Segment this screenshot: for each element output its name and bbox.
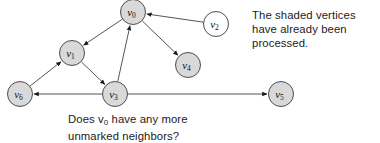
graph-edge-v1-to-v3 [81,62,104,84]
legend-note-line-1: The shaded vertices [252,8,376,22]
legend-note: The shaded vertices have already been pr… [252,8,376,51]
graph-node-v3[interactable]: v3 [103,82,128,107]
graph-node-subscript-v4: 4 [187,64,191,73]
caption-line-1-subscript: 0 [104,118,109,127]
figure-caption: Does v0 have any more unmarked neighbors… [68,112,248,143]
graph-node-subscript-v5: 5 [280,93,284,102]
legend-note-line-2: have already been [252,22,376,36]
caption-line-1: Does v0 have any more [68,112,248,129]
graph-node-v4[interactable]: v4 [176,53,201,78]
graph-edge-v6-to-v1 [30,62,61,86]
graph-edge-v3-to-v0 [118,26,130,82]
graph-node-subscript-v1: 1 [71,52,75,61]
graph-node-subscript-v0: 0 [132,11,136,20]
legend-note-line-3: processed. [252,36,376,50]
graph-node-v5[interactable]: v5 [269,82,294,107]
graph-node-subscript-v6: 6 [19,93,23,102]
caption-line-2: unmarked neighbors? [68,129,248,143]
graph-node-subscript-v2: 2 [215,23,219,32]
graph-edge-v2-to-v0 [147,14,203,22]
graph-edge-v0-to-v4 [142,21,178,55]
caption-line-1-after: have any more [108,113,187,125]
graph-node-v2[interactable]: v2 [204,12,229,37]
graph-node-v0[interactable]: v0 [121,0,146,25]
graph-node-v6[interactable]: v6 [8,82,33,107]
caption-line-1-before: Does v [68,113,104,125]
figure-canvas: v0v1v2v3v4v5v6 The shaded vertices have … [0,0,380,143]
graph-edge-v0-to-v1 [84,19,123,45]
graph-node-v1[interactable]: v1 [60,41,85,66]
nodes-layer: v0v1v2v3v4v5v6 [8,0,294,107]
graph-node-subscript-v3: 3 [114,93,118,102]
